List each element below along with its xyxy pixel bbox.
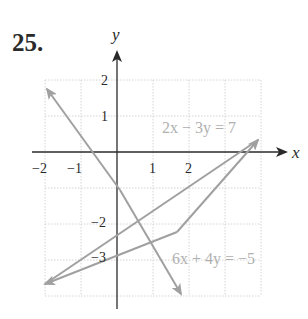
line-6x-plus-4y-eq-neg5 xyxy=(47,89,120,190)
x-axis-label: x xyxy=(291,143,300,162)
tick-x-2: 2 xyxy=(185,161,192,176)
tick-x-1: 1 xyxy=(149,161,156,176)
tick-y-2: 2 xyxy=(101,73,108,88)
coordinate-plane: y x −2 −1 1 2 2 1 −2 −3 2x − 3y = 7 6x +… xyxy=(0,0,308,319)
y-axis-label: y xyxy=(110,25,120,44)
tick-y-neg2: −2 xyxy=(91,215,106,230)
tick-x-neg1: −1 xyxy=(67,161,82,176)
equation-label-2: 6x + 4y = −5 xyxy=(172,250,255,268)
tick-y-neg3: −3 xyxy=(91,250,106,265)
equation-label-1: 2x − 3y = 7 xyxy=(162,119,236,137)
tick-y-1: 1 xyxy=(101,109,108,124)
tick-x-neg2: −2 xyxy=(32,161,47,176)
